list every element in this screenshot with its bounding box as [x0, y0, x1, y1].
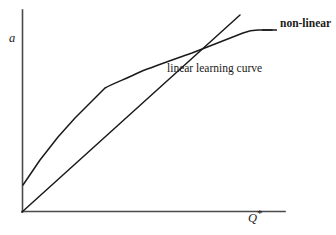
x-axis-label-variable: Q [248, 211, 257, 225]
x-axis-label-superscript: * [257, 207, 263, 219]
linear-series-label: linear learning curve [167, 63, 262, 75]
nonlinear-series-label: non-linear [280, 18, 331, 30]
nonlinear-curve-line [23, 30, 272, 185]
plot-canvas [0, 0, 336, 235]
x-axis-label: Q* [248, 208, 263, 225]
linear-learning-curve-line [22, 15, 240, 212]
y-axis-label: a [9, 32, 15, 45]
learning-curve-figure: a Q* non-linear linear learning curve [0, 0, 336, 235]
